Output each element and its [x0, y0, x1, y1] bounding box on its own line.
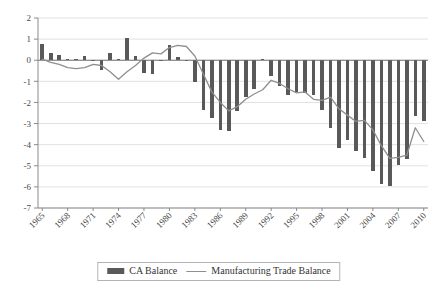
y-axis-ticks-group: 210-1-2-3-4-5-6-7 [24, 13, 39, 213]
bar [193, 60, 197, 82]
trend-line [42, 45, 424, 158]
bar [337, 60, 341, 148]
x-tick-label: 1992 [256, 210, 276, 230]
chart-legend: CA Balance Manufacturing Trade Balance [97, 262, 340, 281]
bar [227, 60, 231, 131]
x-tick-label: 1989 [230, 210, 250, 230]
bar [295, 60, 299, 92]
bar [371, 60, 375, 171]
y-tick-label: -4 [24, 140, 32, 150]
bar [312, 60, 316, 95]
bar [414, 60, 418, 116]
bar [329, 60, 333, 128]
bar [405, 60, 409, 159]
y-tick-label: -2 [24, 98, 32, 108]
x-tick-label: 1986 [205, 210, 225, 230]
x-tick-label: 2004 [358, 210, 378, 230]
bar [219, 60, 223, 130]
bar [244, 60, 248, 97]
x-tick-label: 2001 [332, 210, 352, 230]
bar [252, 60, 256, 89]
bar [303, 60, 307, 93]
bar [397, 60, 401, 165]
x-tick-label: 2007 [383, 210, 403, 230]
y-tick-label: 0 [27, 55, 32, 65]
bar [235, 60, 239, 111]
bar [363, 60, 367, 158]
gridlines-group [38, 18, 428, 208]
x-tick-label: 1980 [154, 210, 174, 230]
bar [202, 60, 206, 110]
bar [125, 38, 129, 61]
x-axis-ticks-group: 1965196819711974197719801983198619891992… [27, 208, 429, 230]
bar [83, 56, 87, 60]
legend-bar-swatch-icon [107, 268, 124, 274]
x-tick-label: 1968 [52, 210, 72, 230]
x-tick-label: 1974 [103, 210, 123, 230]
bar [49, 53, 53, 60]
legend-label-manufacturing-trade-balance: Manufacturing Trade Balance [211, 266, 330, 276]
bar [142, 60, 146, 73]
bar [40, 44, 44, 60]
y-tick-label: -6 [24, 182, 32, 192]
axis-lines-group [38, 18, 428, 208]
bar [388, 60, 392, 186]
line-series-group [42, 45, 424, 158]
bar [320, 60, 324, 110]
y-tick-label: -1 [24, 77, 32, 87]
legend-label-ca-balance: CA Balance [129, 266, 177, 276]
y-tick-label: 2 [27, 13, 32, 23]
chart-figure: 210-1-2-3-4-5-6-7 1965196819711974197719… [0, 0, 438, 287]
x-tick-label: 2010 [408, 210, 428, 230]
x-tick-label: 1971 [78, 210, 98, 230]
bar [354, 60, 358, 151]
bar [269, 60, 273, 76]
bar [57, 55, 61, 60]
bar [380, 60, 384, 184]
y-tick-label: 1 [27, 34, 32, 44]
bar [278, 60, 282, 85]
bar [346, 60, 350, 140]
y-tick-label: -7 [24, 203, 32, 213]
y-tick-label: -5 [24, 161, 32, 171]
bar [134, 56, 138, 60]
legend-item-ca-balance: CA Balance [107, 266, 177, 276]
x-tick-label: 1995 [281, 210, 301, 230]
y-tick-label: -3 [24, 119, 32, 129]
bar [151, 60, 155, 74]
bar [422, 60, 426, 121]
legend-line-swatch-icon [186, 271, 206, 272]
x-tick-label: 1977 [129, 210, 149, 230]
x-tick-label: 1983 [179, 210, 199, 230]
legend-item-manufacturing-trade-balance: Manufacturing Trade Balance [186, 266, 330, 276]
x-tick-label: 1998 [307, 210, 327, 230]
chart-plot-area: 210-1-2-3-4-5-6-7 1965196819711974197719… [0, 0, 438, 287]
bar [108, 53, 112, 60]
